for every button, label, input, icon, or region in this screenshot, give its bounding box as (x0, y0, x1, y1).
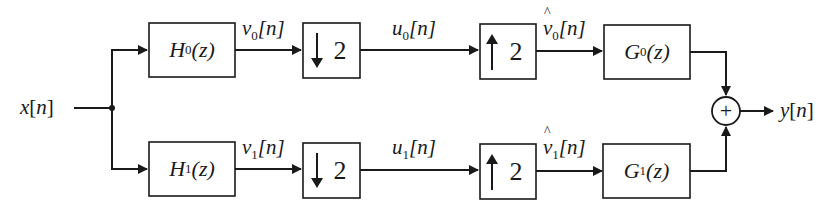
downsampler-0-factor: 2 (320, 23, 360, 78)
v1-label: v1[n] (242, 137, 285, 158)
v0-label: v0[n] (242, 18, 285, 39)
v1hat-label: v1[n] (543, 137, 586, 158)
g1-to-adder-wire (690, 127, 726, 171)
split-wire-bottom (112, 108, 147, 169)
input-label: x[n] (20, 97, 54, 118)
g1-label: G1(z) (603, 144, 690, 198)
v0hat-label: v0[n] (543, 18, 586, 39)
upsampler-0-factor: 2 (496, 24, 536, 79)
u0-label: u0[n] (392, 18, 436, 39)
u1-label: u1[n] (392, 137, 436, 158)
g0-to-adder-wire (690, 52, 726, 95)
upsampler-1-factor: 2 (496, 144, 536, 199)
h0-label: H0(z) (149, 23, 235, 77)
h1-label: H1(z) (149, 142, 235, 196)
split-wire-top (112, 50, 147, 108)
downsampler-1-factor: 2 (320, 143, 360, 198)
output-label: y[n] (780, 100, 814, 121)
adder-plus: + (712, 97, 740, 125)
g0-label: G0(z) (604, 25, 690, 79)
